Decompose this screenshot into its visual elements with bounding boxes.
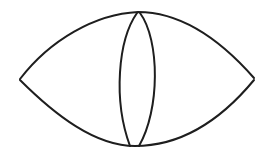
outer-lens-top-arc	[20, 12, 254, 79]
lens-diagram	[0, 0, 272, 159]
inner-lens-right-arc	[139, 13, 155, 146]
outer-lens-bottom-arc	[20, 80, 254, 146]
inner-lens-left-arc	[120, 13, 137, 146]
